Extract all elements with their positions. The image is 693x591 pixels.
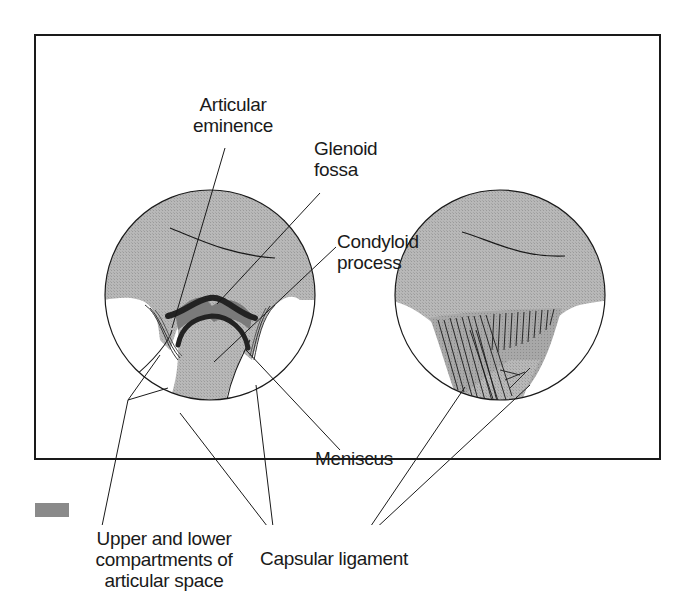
label-articular-eminence: Articular eminence xyxy=(183,94,283,136)
label-line: articular space xyxy=(84,570,244,591)
left-circle-section xyxy=(100,180,330,405)
label-glenoid-fossa: Glenoid fossa xyxy=(314,138,377,180)
label-line: compartments of xyxy=(84,549,244,570)
label-line: Condyloid xyxy=(337,231,419,252)
label-capsular-ligament: Capsular ligament xyxy=(260,548,408,569)
label-line: fossa xyxy=(314,159,377,180)
label-line: Articular xyxy=(183,94,283,115)
label-line: process xyxy=(337,252,419,273)
label-condyloid-process: Condyloid process xyxy=(337,231,419,273)
label-line: Glenoid xyxy=(314,138,377,159)
label-meniscus: Meniscus xyxy=(315,448,393,469)
label-compartments: Upper and lower compartments of articula… xyxy=(84,528,244,591)
gray-swatch xyxy=(35,503,69,517)
label-line: eminence xyxy=(183,115,283,136)
label-line: Upper and lower xyxy=(84,528,244,549)
right-circle-lateral xyxy=(390,180,610,430)
